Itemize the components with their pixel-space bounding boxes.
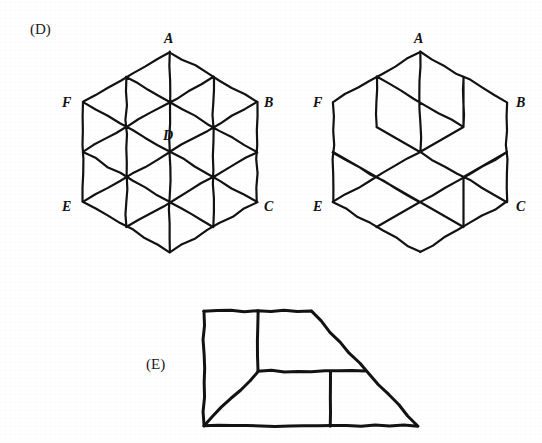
isometric-cube-figure: ABCEF	[312, 31, 526, 252]
cube-vertex-label-f: F	[312, 95, 323, 110]
cube-inner-lines	[333, 52, 507, 227]
trapezoid-outline	[203, 310, 418, 426]
hexagon-vertex-label-d: D	[162, 128, 173, 143]
line-drawing-svg: (D) ABCDEF ABCEF (E)	[0, 0, 542, 443]
panel-d: (D)	[30, 21, 51, 38]
hexagon-vertex-labels: ABCDEF	[61, 31, 274, 214]
hexagon-vertex-label-f: F	[61, 95, 72, 110]
trapezoid-inner-lines	[204, 311, 365, 426]
hexagon-vertex-label-c: C	[264, 199, 274, 214]
hexagon-vertex-label-a: A	[163, 31, 173, 46]
panel-label-e: (E)	[146, 356, 165, 373]
trapezoid-figure	[203, 310, 418, 426]
cube-vertex-label-b: B	[515, 95, 525, 110]
cube-vertex-label-a: A	[413, 31, 423, 46]
rhombille-hexagon-figure: ABCDEF	[61, 31, 274, 252]
hexagon-vertex-label-b: B	[263, 95, 273, 110]
figure-canvas: (D) ABCDEF ABCEF (E)	[0, 0, 542, 443]
panel-label-d: (D)	[30, 21, 51, 38]
panel-e: (E)	[146, 356, 165, 373]
cube-vertex-label-c: C	[516, 199, 526, 214]
cube-vertex-labels: ABCEF	[312, 31, 526, 214]
hexagon-vertex-label-e: E	[61, 199, 71, 214]
hexagon-inner-lines	[83, 52, 257, 253]
cube-vertex-label-e: E	[312, 199, 322, 214]
